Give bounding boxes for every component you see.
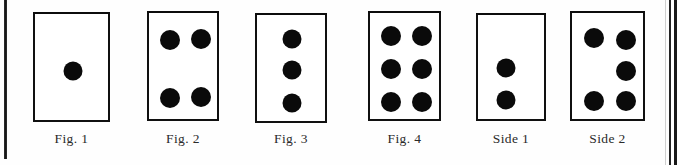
dot bbox=[381, 26, 401, 46]
figure-caption: Side 1 bbox=[493, 131, 530, 147]
dot bbox=[584, 28, 604, 48]
right-column-rule-inner bbox=[669, 0, 671, 165]
figure-plate: Fig. 1Fig. 2Fig. 3Fig. 4Side 1Side 2 bbox=[0, 0, 680, 165]
figure-caption: Fig. 4 bbox=[388, 131, 422, 147]
dot bbox=[497, 59, 516, 78]
dot bbox=[412, 92, 432, 112]
dot-panel-side-1 bbox=[476, 13, 546, 121]
dot bbox=[191, 87, 211, 107]
dot bbox=[497, 91, 516, 110]
dot bbox=[283, 61, 302, 80]
dot bbox=[160, 88, 180, 108]
dot bbox=[64, 62, 83, 81]
dot bbox=[616, 91, 636, 111]
dot bbox=[381, 59, 401, 79]
dot-panel-fig-3 bbox=[255, 13, 327, 123]
dot bbox=[160, 30, 180, 50]
figure-caption: Fig. 1 bbox=[55, 131, 89, 147]
right-column-rule-outer bbox=[674, 0, 677, 165]
dot bbox=[412, 26, 432, 46]
left-column-rule bbox=[4, 0, 7, 159]
dot bbox=[412, 59, 432, 79]
figure-caption: Side 2 bbox=[589, 131, 626, 147]
dot-panel-side-2 bbox=[570, 11, 645, 121]
dot bbox=[283, 94, 302, 113]
dot bbox=[381, 92, 401, 112]
right-column-hairline-rule bbox=[665, 0, 666, 165]
figure-caption: Fig. 3 bbox=[274, 131, 308, 147]
dot-panel-fig-4 bbox=[368, 11, 441, 121]
dot bbox=[584, 91, 604, 111]
dot bbox=[616, 30, 636, 50]
dot bbox=[616, 61, 636, 81]
dot bbox=[283, 30, 302, 49]
dot bbox=[191, 29, 211, 49]
figure-caption: Fig. 2 bbox=[166, 131, 200, 147]
dot-panel-fig-2 bbox=[147, 11, 219, 121]
dot-panel-fig-1 bbox=[33, 12, 110, 122]
